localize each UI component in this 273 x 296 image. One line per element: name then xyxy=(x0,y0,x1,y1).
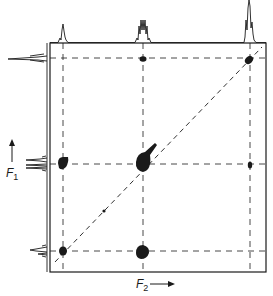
cross-peak xyxy=(58,157,68,169)
diagonal-peak xyxy=(243,54,254,65)
f1-arrow-icon xyxy=(9,139,15,162)
f2-arrow-icon xyxy=(150,281,175,287)
cross-peak xyxy=(248,162,252,169)
f1-axis-label: F1 xyxy=(6,166,18,182)
f1-projection-spectrum xyxy=(8,43,47,272)
diagonal-peak xyxy=(136,143,157,172)
diagonal-peak xyxy=(59,247,67,256)
f2-axis-label: F2 xyxy=(136,277,148,293)
cross-peak xyxy=(140,56,147,62)
cosy-spectrum xyxy=(0,0,273,296)
diagonal-line xyxy=(55,47,262,262)
f2-projection-spectrum xyxy=(50,0,266,43)
plot-frame xyxy=(50,43,266,272)
cross-peak xyxy=(136,245,149,259)
guide-lines xyxy=(50,43,266,272)
